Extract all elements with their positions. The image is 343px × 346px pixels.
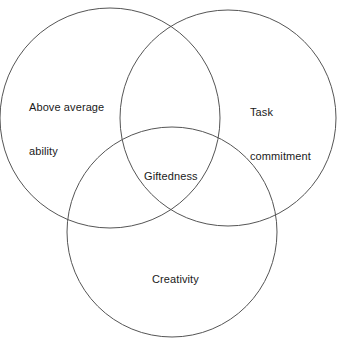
label-task-commitment: Task commitment <box>250 76 311 192</box>
label-giftedness: Giftedness <box>144 140 198 213</box>
label-creativity-text: Creativity <box>152 272 199 287</box>
label-above-average-ability-line-1: Above average <box>29 100 104 115</box>
venn-diagram: Above average ability Task commitment Gi… <box>0 0 343 346</box>
label-above-average-ability-line-2: ability <box>29 144 104 159</box>
label-giftedness-text: Giftedness <box>144 169 198 184</box>
label-task-commitment-line-2: commitment <box>250 149 311 164</box>
label-creativity: Creativity <box>152 243 199 316</box>
label-task-commitment-line-1: Task <box>250 105 311 120</box>
label-above-average-ability: Above average ability <box>29 71 104 187</box>
